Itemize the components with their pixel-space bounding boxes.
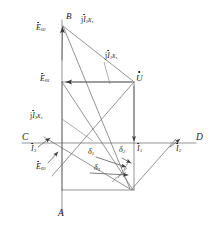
phasor-i3 [38, 138, 50, 147]
label-delta3: δ3 [94, 164, 100, 173]
label-i3-sub: 3 [34, 148, 36, 153]
label-axis-d: D [196, 133, 203, 143]
label-ji2xs-base: I [83, 15, 86, 24]
segment-i3-axis-to-vertex [44, 137, 130, 189]
label-delta2-sub: 2 [123, 149, 125, 154]
phasor-e03 [48, 152, 58, 163]
label-i3-base: I [31, 144, 34, 153]
label-ji2xs-tailsub: s [91, 19, 93, 24]
phasor-e02 [62, 27, 63, 60]
label-ji3xs-base: I [32, 111, 35, 120]
label-delta1-sub: 1 [92, 151, 94, 156]
label-axis-a: A [58, 209, 64, 219]
label-i2-sub: 2 [179, 148, 181, 153]
label-i1-sub: 1 [140, 148, 142, 153]
label-i1: I1 [137, 145, 142, 154]
label-e03: E03 [36, 163, 46, 172]
label-ji1xs: jI1xs [105, 52, 117, 61]
angle-delta1-arrow [96, 157, 126, 167]
label-e02-base: E [36, 23, 41, 32]
label-i1-base: I [137, 144, 140, 153]
segment-b-to-u [63, 26, 133, 81]
label-delta3-sub: 3 [98, 167, 100, 172]
label-u-base: U [136, 73, 143, 83]
label-e02: E02 [36, 24, 46, 33]
angle-delta2-arrow [122, 158, 131, 163]
label-ji1xs-base: I [107, 51, 110, 60]
label-ji1xs-tailsub: s [115, 55, 117, 60]
leader-ji1xs [104, 62, 110, 84]
label-e01-base: E [40, 74, 45, 83]
label-u: U [136, 74, 143, 83]
label-point-b: B [66, 12, 72, 21]
label-ji2xs: jI2xs [81, 16, 93, 25]
label-e01: E01 [40, 75, 50, 84]
label-ji3xs: jI3xs [30, 112, 42, 121]
label-i2-base: I [176, 144, 179, 153]
label-e02-sub: 02 [41, 27, 46, 32]
label-ji3xs-tailsub: s [40, 115, 42, 120]
segment-u-to-lower-left [52, 82, 134, 176]
label-e01-sub: 01 [45, 78, 50, 83]
label-delta2: δ2 [119, 146, 125, 155]
label-delta1: δ1 [88, 148, 94, 157]
label-i2: I2 [176, 145, 181, 154]
label-e03-sub: 03 [41, 166, 46, 171]
label-axis-c: C [22, 133, 28, 143]
label-e03-base: E [36, 162, 41, 171]
label-i3: I3 [31, 145, 36, 154]
phasor-diagram-figure: B C D A E02 jI2xs jI1xs E01 U jI3xs I3 I… [0, 0, 216, 232]
